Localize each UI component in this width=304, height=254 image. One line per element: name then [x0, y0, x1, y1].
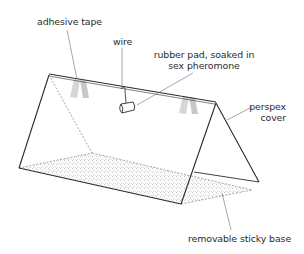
wire — [121, 87, 126, 103]
trap-illustration — [0, 0, 304, 254]
label-perspex-cover: perspex cover — [244, 101, 286, 123]
label-rubber-pad: rubber pad, soaked in sex pheromone — [152, 49, 256, 71]
pheromone-pad — [120, 102, 135, 113]
label-rubber-pad-line1: rubber pad, soaked in — [152, 49, 256, 60]
adhesive-tape-left — [70, 79, 89, 98]
label-perspex-line2: cover — [244, 112, 286, 123]
label-adhesive-tape: adhesive tape — [37, 16, 102, 27]
pheromone-trap-diagram: adhesive tape wire rubber pad, soaked in… — [0, 0, 304, 254]
label-rubber-pad-line2: sex pheromone — [152, 60, 256, 71]
leader-adhesive-tape — [67, 30, 77, 79]
label-perspex-line1: perspex — [244, 101, 286, 112]
leader-sticky-base — [222, 193, 231, 230]
label-wire: wire — [113, 36, 132, 47]
label-sticky-base: removable sticky base — [188, 233, 291, 244]
